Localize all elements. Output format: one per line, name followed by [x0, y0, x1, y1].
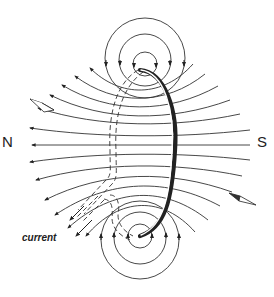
south-label: S	[257, 133, 267, 150]
wire-loop	[140, 70, 175, 236]
current-arrows	[70, 206, 92, 236]
compass-needle-lower-right	[229, 193, 256, 205]
north-label: N	[2, 133, 13, 150]
current-loop-diagram	[0, 0, 274, 297]
compass-needle-upper-left	[30, 99, 54, 112]
current-label: current	[22, 232, 56, 243]
magnetic-field-lines	[30, 64, 250, 236]
